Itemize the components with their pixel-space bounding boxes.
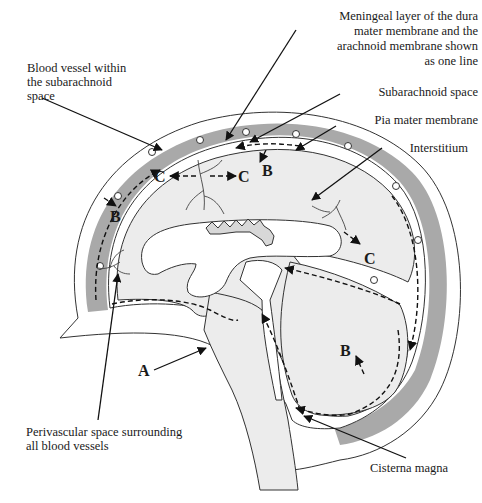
marker-b-cerebellum: B — [340, 342, 351, 359]
label-perivascular-space: Perivascular space surrounding all blood… — [26, 425, 183, 453]
svg-text:space: space — [27, 89, 55, 103]
marker-b-left: B — [110, 208, 121, 225]
marker-c-left: C — [154, 168, 166, 185]
label-meningeal-layer: Meningeal layer of the dura mater membra… — [337, 9, 479, 68]
marker-a: A — [138, 362, 150, 379]
marker-c-right-lower: C — [364, 250, 376, 267]
marker-c-right: C — [238, 168, 250, 185]
brain-csf-flow-diagram: C C B B C B A Meningeal layer of the dur… — [0, 0, 482, 503]
label-pia-mater: Pia mater membrane — [375, 113, 479, 127]
svg-text:arachnoid membrane shown: arachnoid membrane shown — [337, 39, 479, 53]
svg-text:Meningeal layer of the dura: Meningeal layer of the dura — [339, 9, 478, 23]
svg-text:as one line: as one line — [425, 54, 479, 68]
svg-text:mater membrane and the: mater membrane and the — [354, 24, 478, 38]
label-subarachnoid-space: Subarachnoid space — [378, 85, 478, 99]
svg-text:Blood vessel within: Blood vessel within — [27, 61, 127, 75]
label-interstitium: Interstitium — [410, 141, 469, 155]
label-cisterna-magna: Cisterna magna — [370, 461, 449, 475]
svg-text:all blood vessels: all blood vessels — [26, 439, 109, 453]
svg-text:Perivascular space surrounding: Perivascular space surrounding — [26, 425, 183, 439]
label-blood-vessel: Blood vessel within the subarachnoid spa… — [27, 61, 127, 103]
svg-text:the subarachnoid: the subarachnoid — [27, 75, 113, 89]
marker-b-top: B — [262, 162, 273, 179]
